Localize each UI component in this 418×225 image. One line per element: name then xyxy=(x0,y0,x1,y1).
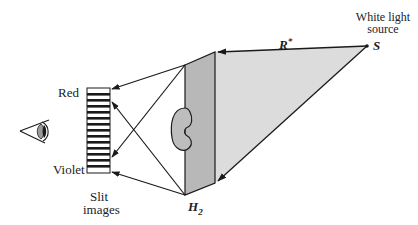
hologram-label-text: H xyxy=(188,199,198,214)
source-description: White light source xyxy=(348,11,418,35)
source-point xyxy=(365,44,369,48)
reference-label-sup: * xyxy=(288,36,293,46)
ray-bottom-to-violet xyxy=(112,172,185,195)
reference-label-text: R xyxy=(279,37,288,52)
source-description-line2: source xyxy=(348,23,418,35)
hologram-label: H2 xyxy=(188,200,203,219)
slit-images-label-line2: images xyxy=(83,203,115,216)
reference-beam-label: R* xyxy=(279,35,292,51)
eye-icon xyxy=(20,120,49,143)
slit-images xyxy=(87,88,110,173)
ray-top-to-red xyxy=(112,65,185,89)
hologram-label-sub: 2 xyxy=(198,207,203,217)
source-label: S xyxy=(373,39,380,52)
violet-label: Violet xyxy=(53,163,85,176)
red-label: Red xyxy=(58,86,79,99)
slit-images-label: Slit images xyxy=(83,190,115,216)
